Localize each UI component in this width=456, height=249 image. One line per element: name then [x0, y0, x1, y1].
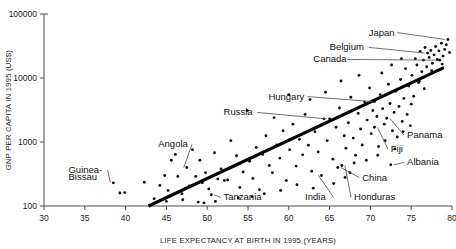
data-point: [368, 86, 371, 89]
data-point: [448, 51, 451, 54]
data-point: [443, 48, 446, 51]
x-tick-label: 50: [202, 213, 212, 223]
data-point: [357, 112, 360, 115]
data-point: [296, 183, 299, 186]
annotation-label: Japan: [369, 27, 395, 38]
data-point: [381, 107, 384, 110]
data-point: [295, 165, 298, 168]
data-point: [424, 46, 427, 49]
annotation-leader-line: [369, 47, 425, 53]
annotation-label: Fiji: [391, 143, 403, 154]
annotation-leader-line: [308, 97, 372, 102]
data-point: [176, 175, 179, 178]
data-point: [359, 127, 362, 130]
annotation-label: Honduras: [354, 191, 395, 202]
data-point: [331, 158, 334, 161]
data-point: [377, 145, 380, 148]
y-tick-label: 100000: [9, 9, 38, 19]
data-point: [118, 191, 121, 194]
data-point: [440, 42, 443, 45]
data-point: [412, 95, 415, 98]
data-point: [278, 157, 281, 160]
data-point: [288, 148, 291, 151]
data-point: [340, 79, 343, 82]
data-point: [390, 63, 393, 66]
annotation-label: China: [362, 172, 388, 183]
data-point: [433, 53, 436, 56]
data-point: [251, 177, 254, 180]
data-point: [401, 120, 404, 123]
data-point: [393, 111, 396, 114]
annotation-label: Tanzania: [224, 191, 263, 202]
data-point: [441, 63, 444, 66]
data-point: [271, 171, 274, 174]
data-point: [226, 179, 229, 182]
data-point: [112, 181, 115, 184]
annotation-label: Russia: [224, 106, 254, 117]
data-point: [336, 166, 339, 169]
data-point: [423, 87, 426, 90]
data-point: [349, 96, 352, 99]
annotation-leader-line: [108, 170, 111, 183]
data-point: [324, 91, 327, 94]
y-tick-label: 100: [23, 201, 37, 211]
data-point: [304, 113, 307, 116]
annotation-leader-line: [341, 167, 359, 177]
y-axis-title: GNP PER CAPITA IN 1995 (US$): [4, 50, 13, 170]
data-point: [317, 150, 320, 153]
data-point: [352, 137, 355, 140]
data-point: [411, 74, 414, 77]
x-tick-label: 65: [325, 213, 335, 223]
data-point: [291, 123, 294, 126]
data-point: [376, 154, 379, 157]
data-point: [425, 65, 428, 68]
data-point: [153, 197, 156, 200]
data-point: [383, 123, 386, 126]
data-point: [285, 179, 288, 182]
data-point: [163, 174, 166, 177]
data-point: [198, 159, 201, 162]
x-tick-label: 30: [39, 213, 49, 223]
annotation-label: Panama: [407, 129, 443, 140]
data-point: [354, 154, 357, 157]
data-point: [340, 164, 343, 167]
data-point: [404, 67, 407, 70]
y-tick-label: 10000: [13, 73, 37, 83]
data-point: [326, 139, 329, 142]
annotation-label: Albania: [407, 156, 439, 167]
x-tick-label: 60: [284, 213, 294, 223]
annotation-label: Angola: [158, 138, 188, 149]
x-tick-label: 75: [406, 213, 416, 223]
data-point: [410, 103, 413, 106]
data-point: [242, 171, 245, 174]
data-point: [428, 56, 431, 59]
data-point: [429, 49, 432, 52]
annotation-label: Canada: [313, 53, 347, 64]
data-point: [301, 153, 304, 156]
data-point: [335, 126, 338, 129]
data-point: [268, 164, 271, 167]
annotation-label: India: [305, 191, 326, 202]
data-point: [344, 176, 347, 179]
y-tick-label: 1000: [18, 137, 37, 147]
scatter-chart-figure: 1001000100001000003035404550556065707580…: [0, 0, 456, 249]
data-point: [143, 181, 146, 184]
x-tick-label: 80: [447, 213, 456, 223]
data-point: [273, 116, 276, 119]
data-point: [385, 117, 388, 120]
data-point: [371, 109, 374, 112]
data-point: [438, 59, 441, 62]
data-point: [445, 43, 448, 46]
x-tick-label: 70: [366, 213, 376, 223]
data-point: [434, 45, 437, 48]
data-point: [332, 182, 335, 185]
annotation-leader-line: [394, 162, 404, 164]
x-tick-label: 55: [243, 213, 253, 223]
data-point: [191, 148, 194, 151]
data-point: [165, 200, 168, 203]
data-point: [380, 71, 383, 74]
annotation-leader-line: [214, 195, 220, 198]
data-point: [344, 147, 347, 150]
annotation-label: Hungary: [268, 91, 304, 102]
data-point: [238, 186, 241, 189]
